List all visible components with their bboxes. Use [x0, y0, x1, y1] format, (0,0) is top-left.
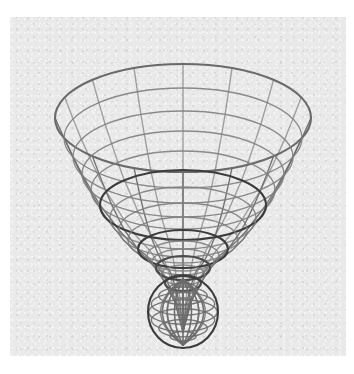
figure-root — [0, 0, 354, 374]
wireframe-mesh-plot — [10, 17, 346, 356]
tip-bulb-group — [148, 276, 218, 348]
plot-panel — [10, 17, 346, 356]
